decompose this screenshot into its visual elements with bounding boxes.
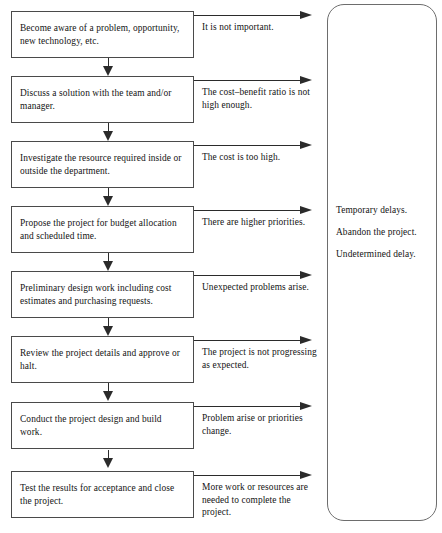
arrow-head: [103, 66, 113, 76]
arrow-shaft: [194, 340, 302, 341]
flow-arrow-down-icon-7: [103, 450, 114, 468]
arrow-head: [103, 196, 113, 206]
arrow-head: [103, 326, 113, 336]
flow-arrow-down-icon-2: [103, 123, 114, 141]
process-box-3-label: Investigate the resource required inside…: [20, 152, 186, 177]
arrow-shaft: [194, 145, 302, 146]
flow-arrow-down-icon-4: [103, 253, 114, 271]
process-box-4[interactable]: Propose the project for budget allocatio…: [11, 206, 194, 253]
flow-arrow-down-icon-5: [103, 318, 114, 336]
arrow-head: [300, 11, 312, 19]
process-box-1[interactable]: Become aware of a problem, opportunity, …: [11, 11, 194, 58]
exit-arrow-right-icon-5: [194, 271, 312, 280]
process-box-7[interactable]: Conduct the project design and build wor…: [11, 402, 194, 449]
outcome-list: Temporary delays. Abandon the project. U…: [336, 204, 436, 261]
exit-arrow-right-icon-3: [194, 141, 312, 150]
process-box-4-label: Propose the project for budget allocatio…: [20, 217, 186, 242]
outcome-item-3: Undetermined delay.: [336, 248, 436, 261]
process-box-8[interactable]: Test the results for acceptance and clos…: [11, 471, 194, 518]
process-box-6-label: Review the project details and approve o…: [20, 347, 186, 372]
arrow-head: [103, 391, 113, 401]
process-box-5-label: Preliminary design work including cost e…: [20, 282, 186, 307]
exit-condition-label-3: The cost is too high.: [202, 151, 320, 164]
process-box-2-label: Discuss a solution with the team and/or …: [20, 87, 186, 112]
exit-condition-label-5: Unexpected problems arise.: [202, 281, 320, 294]
outcome-item-1: Temporary delays.: [336, 204, 436, 217]
exit-arrow-right-icon-2: [194, 76, 312, 85]
arrow-head: [300, 141, 312, 149]
arrow-shaft: [194, 15, 302, 16]
arrow-head: [103, 131, 113, 141]
arrow-shaft: [194, 406, 302, 407]
arrow-head: [103, 458, 113, 468]
exit-condition-label-6: The project is not progressing as expect…: [202, 346, 320, 371]
flow-arrow-down-icon-6: [103, 383, 114, 401]
flow-arrow-down-icon-3: [103, 188, 114, 206]
exit-condition-label-4: There are higher priorities.: [202, 216, 320, 229]
arrow-head: [300, 471, 312, 479]
exit-arrow-right-icon-7: [194, 402, 312, 411]
process-box-5[interactable]: Preliminary design work including cost e…: [11, 271, 194, 318]
exit-arrow-right-icon-8: [194, 471, 312, 480]
exit-condition-label-8: More work or resources are needed to com…: [202, 481, 320, 519]
exit-arrow-right-icon-4: [194, 206, 312, 215]
flowchart-canvas: Become aware of a problem, opportunity, …: [0, 0, 442, 533]
exit-arrow-right-icon-6: [194, 336, 312, 345]
arrow-head: [300, 336, 312, 344]
exit-condition-label-7: Problem arise or priorities change.: [202, 412, 320, 437]
process-box-3[interactable]: Investigate the resource required inside…: [11, 141, 194, 188]
outcome-item-2: Abandon the project.: [336, 226, 436, 239]
arrow-shaft: [194, 275, 302, 276]
arrow-head: [300, 402, 312, 410]
arrow-head: [300, 271, 312, 279]
exit-condition-label-2: The cost–benefit ratio is not high enoug…: [202, 86, 320, 111]
arrow-shaft: [194, 80, 302, 81]
process-box-7-label: Conduct the project design and build wor…: [20, 413, 186, 438]
process-box-8-label: Test the results for acceptance and clos…: [20, 482, 186, 507]
process-box-2[interactable]: Discuss a solution with the team and/or …: [11, 76, 194, 123]
arrow-head: [300, 76, 312, 84]
exit-condition-label-1: It is not important.: [202, 21, 320, 34]
process-box-1-label: Become aware of a problem, opportunity, …: [20, 22, 186, 47]
process-box-6[interactable]: Review the project details and approve o…: [11, 336, 194, 383]
flow-arrow-down-icon-1: [103, 58, 114, 76]
arrow-head: [103, 261, 113, 271]
arrow-shaft: [194, 210, 302, 211]
arrow-head: [300, 206, 312, 214]
exit-arrow-right-icon-1: [194, 11, 312, 20]
outcome-container: [327, 4, 437, 521]
arrow-shaft: [194, 475, 302, 476]
